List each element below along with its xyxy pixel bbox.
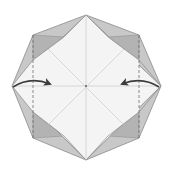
origami-diagram <box>0 0 178 171</box>
center-point <box>85 85 87 87</box>
